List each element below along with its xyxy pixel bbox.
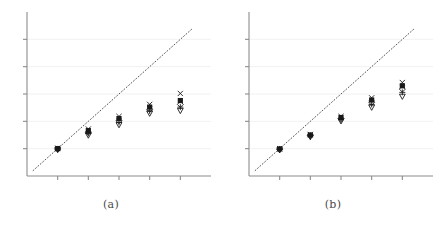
plot-area-a <box>0 0 222 200</box>
plot-area-b <box>222 0 444 200</box>
panel-b: (b) <box>222 0 444 243</box>
series-diamond <box>55 101 184 152</box>
scatter-plot-b <box>222 0 444 200</box>
series-down-triangle <box>55 108 183 152</box>
panel-caption-a: (a) <box>0 198 222 211</box>
figure-two-panel-scatter: (a) (b) <box>0 0 444 243</box>
panel-a: (a) <box>0 0 222 243</box>
series-down-triangle <box>277 94 405 153</box>
series-plus <box>277 89 406 152</box>
marker-square <box>178 98 183 103</box>
scatter-plot-a <box>0 0 222 200</box>
panel-caption-b: (b) <box>222 198 444 211</box>
